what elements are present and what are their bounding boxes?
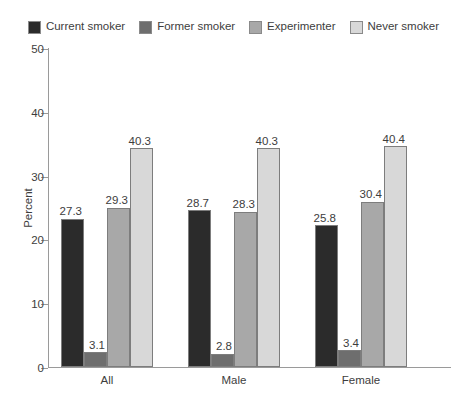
bar[interactable]: 40.4 <box>384 146 407 367</box>
bar[interactable]: 40.3 <box>257 148 280 367</box>
legend-item-label: Never smoker <box>368 21 440 33</box>
bar-value-label: 28.3 <box>233 199 255 211</box>
bar-value-label: 3.4 <box>343 338 359 350</box>
bar-group: 25.83.430.440.4Female <box>315 48 407 367</box>
y-axis-title: Percent <box>22 188 34 228</box>
bars-layer: 27.33.129.340.3All28.72.828.340.3Male25.… <box>49 48 451 367</box>
bar-group: 28.72.828.340.3Male <box>188 48 280 367</box>
bar-value-label: 2.8 <box>216 341 232 353</box>
x-tick-label: All <box>101 374 114 386</box>
legend-swatch-icon <box>28 21 41 34</box>
bar-value-label: 40.3 <box>129 136 151 148</box>
bar-value-label: 27.3 <box>60 206 82 218</box>
bar[interactable]: 40.3 <box>130 148 153 367</box>
bar[interactable]: 28.3 <box>234 212 257 367</box>
legend-item-label: Former smoker <box>157 21 235 33</box>
legend-item[interactable]: Former smoker <box>139 21 235 34</box>
bar-value-label: 25.8 <box>314 213 336 225</box>
bar[interactable]: 27.3 <box>61 219 84 367</box>
y-tick-label: 50 <box>31 43 44 55</box>
y-tick-label: 10 <box>31 298 44 310</box>
bar-value-label: 28.7 <box>187 198 209 210</box>
legend-item[interactable]: Current smoker <box>28 21 125 34</box>
bar[interactable]: 30.4 <box>361 202 384 367</box>
bar[interactable]: 3.4 <box>338 350 361 367</box>
x-tick-label: Male <box>222 374 247 386</box>
legend-item[interactable]: Never smoker <box>350 21 440 34</box>
legend-item-label: Experimenter <box>267 21 335 33</box>
legend-item[interactable]: Experimenter <box>249 21 335 34</box>
chart-legend: Current smokerFormer smokerExperimenterN… <box>0 14 467 40</box>
y-tick-label: 40 <box>31 107 44 119</box>
y-tick-label: 30 <box>31 171 44 183</box>
x-tick-label: Female <box>342 374 380 386</box>
bar-value-label: 40.3 <box>256 136 278 148</box>
legend-item-label: Current smoker <box>46 21 125 33</box>
bar-value-label: 40.4 <box>383 134 405 146</box>
bar-value-label: 30.4 <box>360 189 382 201</box>
bar[interactable]: 25.8 <box>315 225 338 367</box>
x-axis-line <box>48 367 451 368</box>
bar[interactable]: 29.3 <box>107 208 130 368</box>
bar-group: 27.33.129.340.3All <box>61 48 153 367</box>
legend-swatch-icon <box>350 21 363 34</box>
y-tick-label: 20 <box>31 234 44 246</box>
plot-area: 01020304050 Percent 27.33.129.340.3All28… <box>48 48 451 368</box>
bar[interactable]: 28.7 <box>188 210 211 367</box>
legend-swatch-icon <box>139 21 152 34</box>
bar[interactable]: 2.8 <box>211 354 234 367</box>
bar-value-label: 3.1 <box>89 340 105 352</box>
bar-value-label: 29.3 <box>106 195 128 207</box>
y-tick-label: 0 <box>38 362 44 374</box>
bar[interactable]: 3.1 <box>84 352 107 367</box>
legend-swatch-icon <box>249 21 262 34</box>
